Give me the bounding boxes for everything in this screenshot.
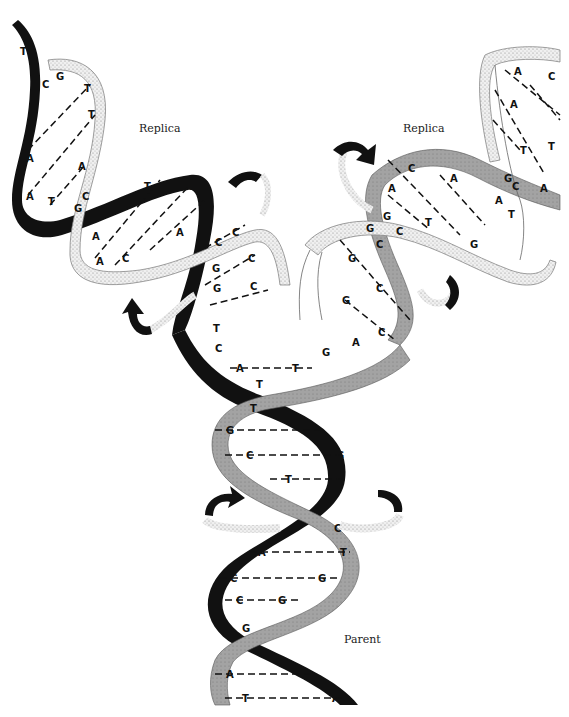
svg-text:C: C [250,281,257,292]
svg-text:G: G [213,283,221,294]
svg-text:C: C [236,595,243,606]
svg-text:C: C [376,283,383,294]
svg-text:A: A [176,227,184,238]
svg-text:A: A [388,183,396,194]
svg-text:G: G [322,347,330,358]
svg-text:G: G [348,253,356,264]
svg-text:G: G [383,211,391,222]
svg-text:T: T [200,201,207,212]
svg-text:T: T [340,547,347,558]
svg-text:G: G [504,173,512,184]
svg-text:G: G [342,295,350,306]
svg-text:C: C [512,181,519,192]
svg-text:T: T [250,403,257,414]
svg-text:C: C [232,227,239,238]
svg-text:A: A [226,669,234,680]
svg-text:A: A [332,693,340,704]
svg-text:A: A [26,153,34,164]
svg-text:T: T [508,209,515,220]
svg-text:T: T [213,323,220,334]
svg-text:A: A [450,173,458,184]
svg-text:A: A [514,66,522,77]
svg-text:T: T [84,83,91,94]
svg-text:C: C [378,327,385,338]
svg-text:C: C [215,237,222,248]
svg-text:A: A [352,337,360,348]
dna-replication-diagram: AT T T GC CG TA C AT CG CG G AT TA [0,0,569,717]
svg-text:C: C [376,239,383,250]
svg-text:T: T [88,109,95,120]
svg-text:G: G [336,450,344,461]
svg-text:A: A [26,191,34,202]
svg-text:A: A [96,256,104,267]
svg-text:A: A [540,183,548,194]
svg-text:A: A [92,231,100,242]
svg-text:T: T [20,46,27,57]
svg-text:G: G [278,595,286,606]
svg-text:C: C [248,253,255,264]
svg-text:G: G [56,71,64,82]
svg-text:T: T [292,363,299,374]
svg-text:C: C [548,71,555,82]
svg-text:C: C [300,425,307,436]
svg-text:C: C [396,226,403,237]
svg-text:A: A [258,547,266,558]
svg-text:G: G [366,223,374,234]
svg-text:C: C [42,79,49,90]
svg-text:C: C [82,191,89,202]
svg-text:C: C [408,163,415,174]
svg-text:G: G [226,425,234,436]
svg-text:C: C [122,253,129,264]
svg-text:C: C [246,450,253,461]
parent-label: Parent [344,633,381,646]
svg-text:A: A [510,99,518,110]
svg-text:T: T [144,181,151,192]
svg-text:T: T [548,141,555,152]
svg-text:T: T [242,693,249,704]
svg-text:A: A [78,161,86,172]
svg-text:T: T [520,145,527,156]
svg-text:G: G [74,203,82,214]
replica-label-left: Replica [139,122,181,135]
svg-text:T: T [256,379,263,390]
dna-illustration: AT T T GC CG TA C AT CG CG G AT TA [0,0,569,717]
svg-text:G: G [212,263,220,274]
svg-text:G: G [242,623,250,634]
svg-text:A: A [332,474,340,485]
replica-label-right: Replica [403,122,445,135]
svg-text:A: A [495,195,503,206]
svg-text:G: G [318,573,326,584]
svg-text:G: G [188,181,196,192]
svg-text:T: T [48,196,55,207]
svg-text:A: A [236,363,244,374]
svg-text:G: G [470,239,478,250]
svg-text:C: C [215,343,222,354]
svg-text:T: T [285,474,292,485]
svg-text:T: T [425,217,432,228]
svg-text:T: T [300,669,307,680]
svg-text:C: C [230,573,237,584]
